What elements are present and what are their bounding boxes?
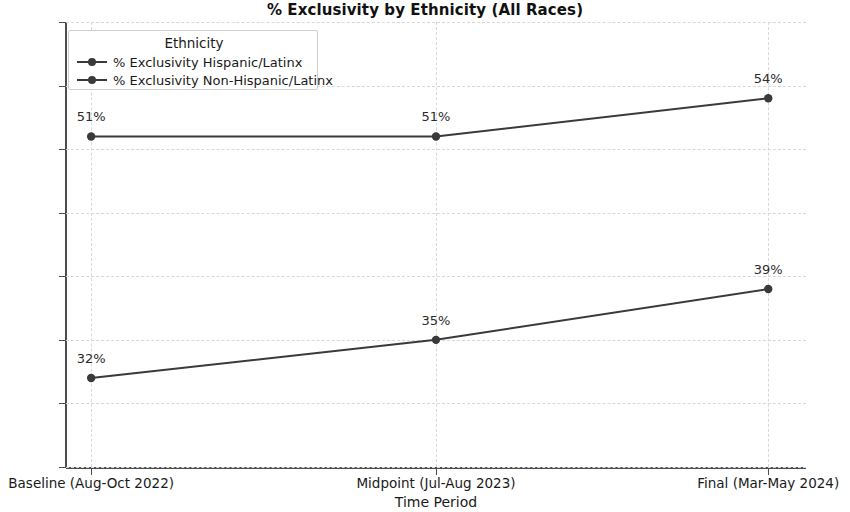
legend-item-non-hispanic-latinx[interactable]: % Exclusivity Non-Hispanic/Latinx [77,71,333,89]
y-tick-mark [59,467,66,468]
legend-item-label: % Exclusivity Hispanic/Latinx [113,55,302,70]
x-tick-label: Final (Mar-May 2024) [658,476,850,490]
gridline [66,467,806,468]
data-point-marker[interactable] [432,132,440,140]
x-tick-mark [768,468,769,475]
data-point-marker[interactable] [764,285,772,293]
chart-title: % Exclusivity by Ethnicity (All Races) [0,1,850,19]
legend-marker-icon [77,56,107,68]
y-tick-mark [59,22,66,23]
series-line [91,289,768,378]
y-tick-mark [59,276,66,277]
x-tick-mark [436,468,437,475]
y-tick-mark [59,340,66,341]
x-tick-label: Midpoint (Jul-Aug 2023) [326,476,546,490]
legend-marker-icon [77,74,107,86]
y-tick-mark [59,86,66,87]
legend-title: Ethnicity [69,35,319,51]
y-tick-mark [59,213,66,214]
legend-item-label: % Exclusivity Non-Hispanic/Latinx [113,73,333,88]
data-point-label: 51% [77,110,106,123]
legend: Ethnicity % Exclusivity Hispanic/Latinx … [68,30,318,90]
x-axis-title: Time Period [66,494,806,510]
legend-item-hispanic-latinx[interactable]: % Exclusivity Hispanic/Latinx [77,53,302,71]
x-tick-label: Baseline (Aug-Oct 2022) [0,476,201,490]
data-point-label: 51% [422,110,451,123]
data-point-marker[interactable] [764,94,772,102]
data-point-label: 39% [754,263,783,276]
data-point-marker[interactable] [87,132,95,140]
data-point-marker[interactable] [87,374,95,382]
data-point-label: 54% [754,72,783,85]
data-point-marker[interactable] [432,336,440,344]
line-chart: % Exclusivity by Ethnicity (All Races) 2… [0,0,850,512]
y-tick-mark [59,403,66,404]
data-point-label: 35% [422,314,451,327]
x-tick-mark [91,468,92,475]
y-tick-mark [59,149,66,150]
data-point-label: 32% [77,352,106,365]
